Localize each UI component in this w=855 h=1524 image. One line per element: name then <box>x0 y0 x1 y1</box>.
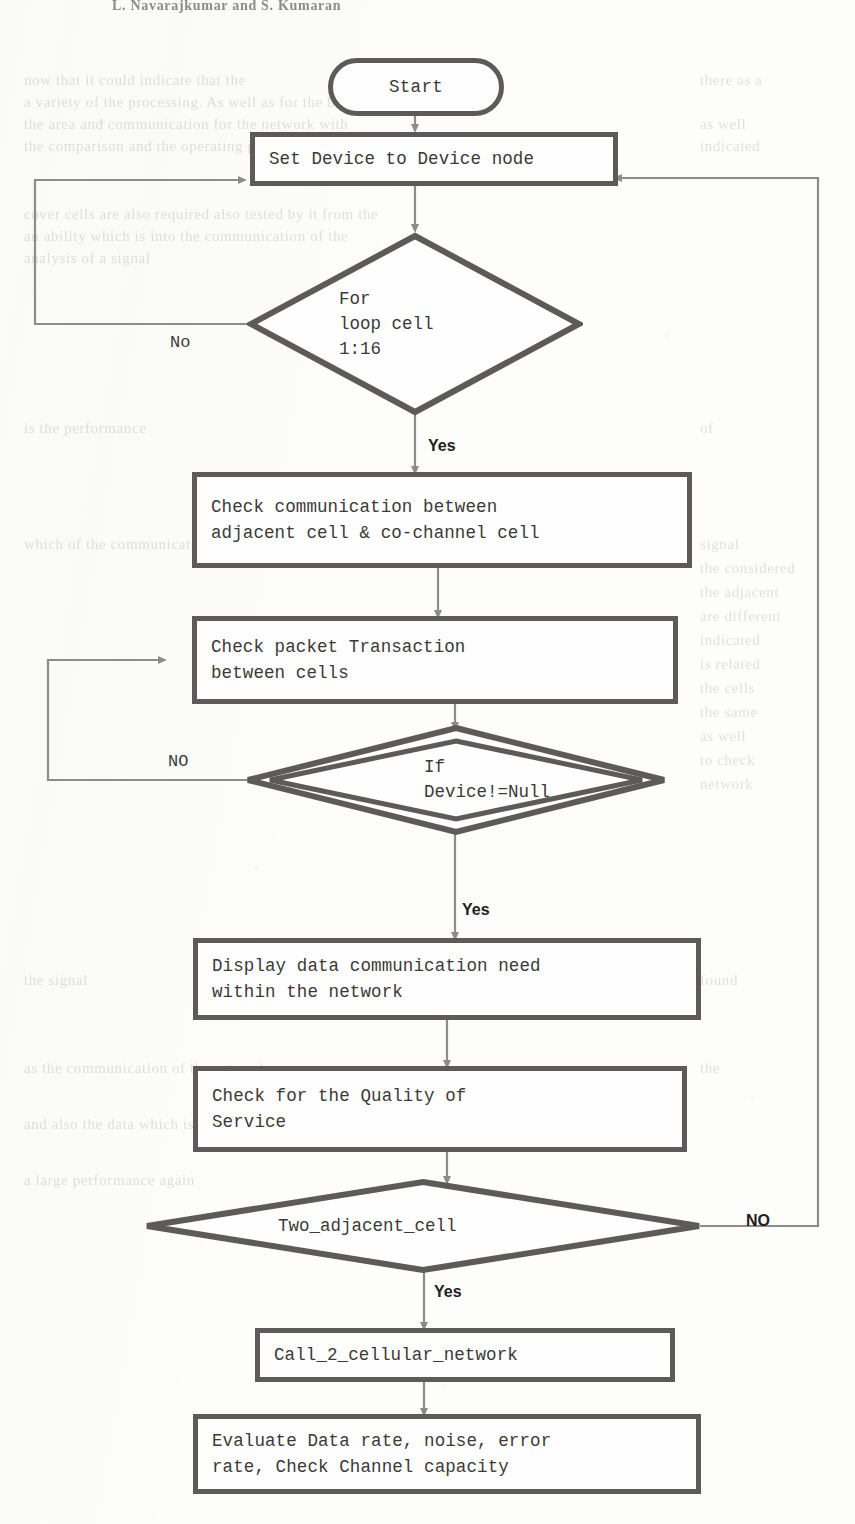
node-check-communication[interactable]: Check communication between adjacent cel… <box>192 472 692 568</box>
node-evaluate[interactable]: Evaluate Data rate, noise, error rate, C… <box>193 1414 701 1494</box>
node-for-loop[interactable]: For loop cell 1:16 <box>247 232 583 416</box>
edge-label-two-adjacent-no: NO <box>746 1212 770 1230</box>
scanned-page: L. Navarajkumar and S. Kumaran now that … <box>0 0 855 1524</box>
node-two-adjacent[interactable]: Two_adjacent_cell <box>143 1178 703 1274</box>
edge-label-for-loop-yes: Yes <box>428 437 456 455</box>
node-check-packet-label: Check packet Transaction between cells <box>211 634 465 686</box>
node-start-label: Start <box>389 77 443 97</box>
node-call-2-cellular-network[interactable]: Call_2_cellular_network <box>255 1328 675 1382</box>
edge-label-for-loop-no: No <box>170 333 190 352</box>
node-check-qos-label: Check for the Quality of Service <box>212 1083 466 1135</box>
node-display-data[interactable]: Display data communication need within t… <box>193 938 701 1020</box>
node-display-data-label: Display data communication need within t… <box>212 953 541 1005</box>
node-start[interactable]: Start <box>328 58 504 116</box>
edge-for-loop-no-loopback <box>35 180 247 324</box>
node-check-packet[interactable]: Check packet Transaction between cells <box>192 616 678 704</box>
node-evaluate-label: Evaluate Data rate, noise, error rate, C… <box>212 1428 551 1480</box>
flowchart: Start Set Device to Device node For loop… <box>0 0 855 1524</box>
edge-label-two-adjacent-yes: Yes <box>434 1283 462 1301</box>
node-set-device-label: Set Device to Device node <box>269 146 534 172</box>
node-check-communication-label: Check communication between adjacent cel… <box>211 494 540 546</box>
node-call-2-cellular-network-label: Call_2_cellular_network <box>274 1342 518 1368</box>
node-if-device[interactable]: If Device!=Null <box>244 724 668 836</box>
node-check-qos[interactable]: Check for the Quality of Service <box>193 1066 687 1152</box>
node-set-device[interactable]: Set Device to Device node <box>250 132 618 186</box>
edge-label-if-device-no: NO <box>168 752 188 771</box>
edge-label-if-device-yes: Yes <box>462 901 490 919</box>
